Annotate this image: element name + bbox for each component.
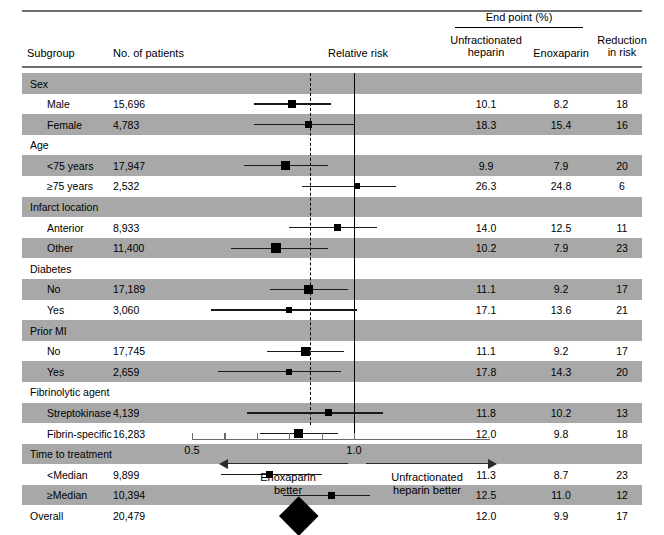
subgroup-header-row: Diabetes <box>22 258 642 279</box>
column-header-subgroup: Subgroup <box>27 47 75 59</box>
row-endpoint-ufh: 10.2 <box>447 242 525 254</box>
row-endpoint-enoxaparin: 9.2 <box>525 345 597 357</box>
table-row: Yes2,65917.814.320 <box>22 361 642 382</box>
row-label: Male <box>47 98 70 110</box>
row-endpoint-ufh: 14.0 <box>447 222 525 234</box>
row-patients: 17,189 <box>113 283 145 295</box>
column-header-ufh-line2: heparin <box>447 46 525 58</box>
row-endpoint-enoxaparin: 13.6 <box>525 304 597 316</box>
x-axis-tick <box>354 433 355 439</box>
x-axis-tick <box>192 433 193 439</box>
left-arrow-head-icon <box>219 459 228 469</box>
row-endpoint-enoxaparin: 11.0 <box>525 489 597 501</box>
row-endpoint-ufh: 11.1 <box>447 345 525 357</box>
row-reduction-in-risk: 11 <box>597 222 647 234</box>
subgroup-header-row: Fibrinolytic agent <box>22 382 642 403</box>
row-endpoint-ufh: 26.3 <box>447 180 525 192</box>
row-label: Yes <box>47 366 64 378</box>
row-reduction-in-risk: 20 <box>597 160 647 172</box>
right-arrow-caption-line2: heparin better <box>366 484 488 497</box>
column-header-reduction-line2: in risk <box>597 46 647 58</box>
row-endpoint-ufh: 11.8 <box>447 407 525 419</box>
row-label: Prior MI <box>30 325 67 337</box>
row-label: Yes <box>47 304 64 316</box>
table-row: No17,74511.19.217 <box>22 341 642 362</box>
row-endpoint-enoxaparin: 7.9 <box>525 160 597 172</box>
x-axis-tick <box>257 433 258 439</box>
subgroup-header-row: Sex <box>22 73 642 94</box>
row-patients: 4,139 <box>113 407 139 419</box>
overall-row: Overall20,47912.09.917 <box>22 505 642 526</box>
left-arrow-caption-line2: better <box>228 484 348 497</box>
row-endpoint-enoxaparin: 14.3 <box>525 366 597 378</box>
row-reduction-in-risk: 18 <box>597 98 647 110</box>
row-endpoint-enoxaparin: 15.4 <box>525 119 597 131</box>
row-reduction-in-risk: 20 <box>597 366 647 378</box>
row-patients: 10,394 <box>113 489 145 501</box>
x-axis-tick-label-low: 0.5 <box>172 444 212 456</box>
row-label: Overall <box>30 510 63 522</box>
x-axis-tick <box>322 433 323 439</box>
x-axis-tick <box>224 433 225 439</box>
row-endpoint-enoxaparin: 9.9 <box>525 510 597 522</box>
left-arrow-bar <box>228 463 348 464</box>
subgroup-header-row: Age <box>22 135 642 156</box>
row-label: No <box>47 283 60 295</box>
row-endpoint-ufh: 11.1 <box>447 283 525 295</box>
row-patients: 8,933 <box>113 222 139 234</box>
row-label: <Median <box>47 469 88 481</box>
row-patients: 16,283 <box>113 428 145 440</box>
x-axis-line <box>192 439 490 440</box>
table-row: Streptokinase4,13911.810.213 <box>22 403 642 424</box>
x-axis-tick <box>289 433 290 439</box>
row-label: ≥Median <box>47 489 87 501</box>
row-endpoint-ufh: 10.1 <box>447 98 525 110</box>
right-arrow-bar <box>366 463 488 464</box>
right-arrow-caption-line1: Unfractionated <box>366 471 488 484</box>
table-row: Fibrin-specific16,28312.09.818 <box>22 423 642 444</box>
row-reduction-in-risk: 17 <box>597 283 647 295</box>
row-label: Other <box>47 242 73 254</box>
row-label: Age <box>30 139 49 151</box>
column-header-unfractionated-heparin: Unfractionated heparin <box>447 34 525 58</box>
subgroup-header-row: Infarct location <box>22 197 642 218</box>
right-arrow-head-icon <box>488 459 497 469</box>
row-label: <75 years <box>47 160 93 172</box>
left-arrow-caption: Enoxaparin better <box>228 471 348 497</box>
column-header-enoxaparin: Enoxaparin <box>525 47 597 59</box>
row-reduction-in-risk: 12 <box>597 489 647 501</box>
left-arrow-caption-line1: Enoxaparin <box>228 471 348 484</box>
row-label: Time to treatment <box>30 448 112 460</box>
row-endpoint-ufh: 12.0 <box>447 428 525 440</box>
row-endpoint-ufh: 9.9 <box>447 160 525 172</box>
row-patients: 15,696 <box>113 98 145 110</box>
column-header-reduction-line1: Reduction <box>597 34 647 46</box>
column-header-reduction-in-risk: Reduction in risk <box>597 34 647 58</box>
row-label: Sex <box>30 78 48 90</box>
row-label: Infarct location <box>30 201 98 213</box>
row-reduction-in-risk: 17 <box>597 345 647 357</box>
row-label: ≥75 years <box>47 180 93 192</box>
row-endpoint-ufh: 17.1 <box>447 304 525 316</box>
x-axis-tick-label-high: 1.0 <box>334 444 374 456</box>
row-label: Fibrinolytic agent <box>30 386 109 398</box>
row-reduction-in-risk: 23 <box>597 469 647 481</box>
table-row: <75 years17,9479.97.920 <box>22 155 642 176</box>
table-row: No17,18911.19.217 <box>22 279 642 300</box>
row-reduction-in-risk: 21 <box>597 304 647 316</box>
right-arrow-caption: Unfractionated heparin better <box>366 471 488 497</box>
subgroup-header-row: Time to treatment <box>22 444 642 465</box>
row-patients: 9,899 <box>113 469 139 481</box>
row-endpoint-enoxaparin: 9.2 <box>525 283 597 295</box>
row-label: Anterior <box>47 222 84 234</box>
table-row: Female4,78318.315.416 <box>22 114 642 135</box>
row-reduction-in-risk: 23 <box>597 242 647 254</box>
row-patients: 2,659 <box>113 366 139 378</box>
row-label: No <box>47 345 60 357</box>
row-patients: 17,947 <box>113 160 145 172</box>
table-row: Yes3,06017.113.621 <box>22 300 642 321</box>
row-endpoint-enoxaparin: 9.8 <box>525 428 597 440</box>
row-endpoint-enoxaparin: 8.7 <box>525 469 597 481</box>
row-patients: 3,060 <box>113 304 139 316</box>
